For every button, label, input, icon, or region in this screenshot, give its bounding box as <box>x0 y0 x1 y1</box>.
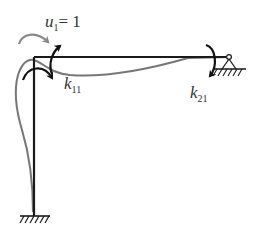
deformed-column-curve <box>16 60 34 212</box>
frame-diagram: u1= 1 k11 k21 <box>0 0 262 233</box>
k11-moment-arrow-upper-icon <box>50 46 60 74</box>
frame-members <box>34 57 226 216</box>
u1-label: u1= 1 <box>45 12 81 33</box>
k11-moment-arrow-lower-icon <box>23 68 52 80</box>
deformed-beam-curve <box>34 57 229 75</box>
k21-label: k21 <box>190 83 208 104</box>
fixed-support-icon <box>20 216 50 223</box>
k21-moment-arrow-icon <box>206 45 215 76</box>
deformed-shape <box>16 57 229 212</box>
imposed-rotation-arrow-icon <box>19 35 48 44</box>
k11-label: k11 <box>64 74 81 95</box>
